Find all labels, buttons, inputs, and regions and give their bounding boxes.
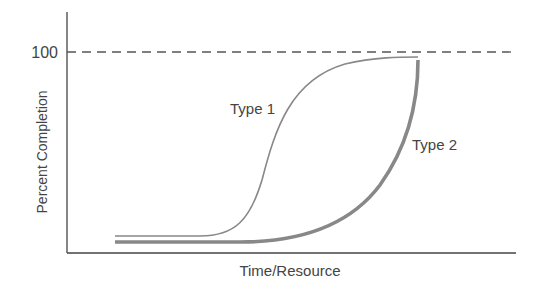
x-axis-label: Time/Resource	[239, 262, 340, 279]
ytick-100: 100	[31, 44, 58, 61]
y-axis-label: Percent Completion	[34, 91, 50, 214]
series-type2-line	[115, 60, 418, 242]
series-type1-label: Type 1	[230, 100, 275, 117]
chart: 100 Percent Completion Time/Resource Typ…	[0, 0, 540, 293]
series-type2-label: Type 2	[412, 136, 457, 153]
series-type1-line	[115, 57, 418, 236]
